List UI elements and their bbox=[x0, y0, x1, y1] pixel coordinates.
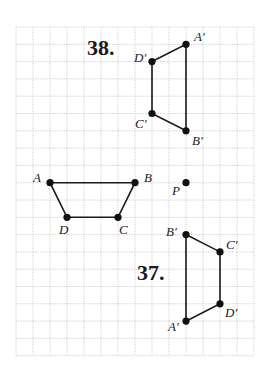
vertex-dot-c-prime-0 bbox=[148, 110, 155, 117]
vertex-dot-a-prime-2 bbox=[182, 318, 189, 325]
vertex-label-c-1: C bbox=[119, 222, 128, 237]
vertex-dot-a-1 bbox=[46, 179, 53, 186]
vertex-dot-b-prime-2 bbox=[182, 231, 189, 238]
rotation-diagram-figure: A′B′C′D′ABCDA′B′C′D′P 38. 37. bbox=[0, 0, 259, 368]
vertex-dot-d-1 bbox=[63, 214, 70, 221]
vertex-label-a-prime-2: A′ bbox=[167, 319, 179, 334]
problem-number-37: 37. bbox=[137, 260, 165, 285]
problem-number-38: 38. bbox=[87, 35, 115, 60]
vertex-dot-c-1 bbox=[114, 214, 121, 221]
vertex-label-d-1: D bbox=[58, 222, 69, 237]
vertex-label-c-prime-2: C′ bbox=[226, 237, 238, 252]
vertex-label-center-p: P bbox=[171, 183, 180, 198]
vertex-dot-b-1 bbox=[131, 179, 138, 186]
vertex-label-c-prime-0: C′ bbox=[135, 116, 147, 131]
vertex-label-d-prime-2: D′ bbox=[224, 305, 237, 320]
diagram-canvas: A′B′C′D′ABCDA′B′C′D′P 38. 37. bbox=[0, 0, 259, 368]
vertex-label-b-1: B bbox=[144, 170, 152, 185]
vertex-label-b-prime-2: B′ bbox=[166, 224, 177, 239]
vertex-label-d-prime-0: D′ bbox=[133, 50, 146, 65]
vertex-dot-d-prime-2 bbox=[216, 300, 223, 307]
vertex-dot-c-prime-2 bbox=[216, 248, 223, 255]
vertex-label-b-prime-0: B′ bbox=[192, 133, 203, 148]
vertex-dot-b-prime-0 bbox=[182, 127, 189, 134]
vertex-label-a-1: A bbox=[32, 170, 41, 185]
vertex-dot-d-prime-0 bbox=[148, 58, 155, 65]
vertex-dot-a-prime-0 bbox=[182, 41, 189, 48]
vertex-dot-center-p bbox=[182, 179, 189, 186]
vertex-label-a-prime-0: A′ bbox=[193, 29, 205, 44]
